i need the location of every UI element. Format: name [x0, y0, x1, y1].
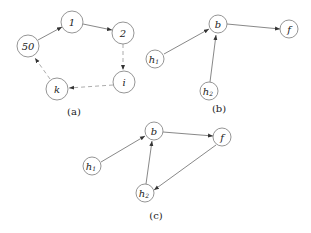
svg-text:i: i	[122, 77, 125, 88]
node-b: b	[145, 122, 163, 140]
svg-text:k: k	[54, 84, 60, 95]
edge-h1-to-b	[164, 29, 209, 54]
node-h1: h1	[146, 50, 164, 68]
node-h2: h2	[136, 184, 154, 202]
caption-b: (b)	[212, 103, 226, 114]
node-h2: h2	[200, 82, 218, 100]
node-k: k	[46, 78, 68, 100]
edge-50-to-1	[38, 27, 62, 40]
edge-i-to-k	[69, 85, 113, 88]
node-f: f	[280, 20, 298, 38]
diagram-c: b f h1 h2 (c)	[83, 122, 231, 221]
diagram-a: 50 1 2 i k (a)	[17, 11, 135, 117]
diagram-b: b f h1 h2 (b)	[146, 15, 298, 114]
node-b: b	[209, 15, 227, 33]
graph-diagrams: 50 1 2 i k (a) b f	[0, 0, 311, 233]
edge-h2-to-b	[210, 35, 216, 82]
svg-text:b: b	[151, 126, 157, 137]
node-1: 1	[61, 11, 83, 33]
edge-k-to-50	[35, 58, 50, 79]
node-2: 2	[112, 22, 134, 44]
node-50: 50	[17, 35, 39, 57]
svg-text:2: 2	[119, 28, 126, 39]
edge-h2-to-b	[146, 141, 152, 184]
edge-b-to-f	[227, 24, 280, 29]
svg-text:1: 1	[69, 17, 75, 28]
node-i: i	[113, 71, 135, 93]
node-f: f	[213, 128, 231, 146]
edge-b-to-f	[163, 132, 213, 136]
caption-a: (a)	[67, 106, 81, 117]
caption-c: (c)	[149, 210, 163, 221]
svg-text:50: 50	[22, 41, 35, 52]
svg-text:b: b	[215, 19, 221, 30]
edge-f-to-h2	[154, 145, 216, 190]
edge-h1-to-b	[101, 136, 145, 162]
node-h1: h1	[83, 157, 101, 175]
edge-1-to-2	[83, 24, 112, 30]
